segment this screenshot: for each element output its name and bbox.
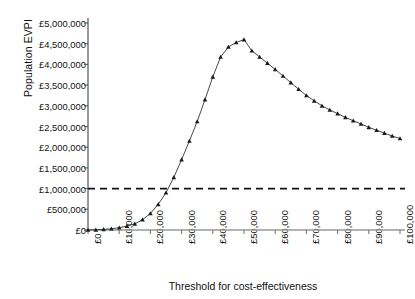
data-point-markers [86,37,403,232]
x-axis-title: Threshold for cost-effectiveness [88,280,398,292]
axes [84,18,405,234]
data-series-line [88,40,400,230]
